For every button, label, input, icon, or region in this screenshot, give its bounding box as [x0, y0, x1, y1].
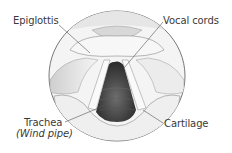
larynx-diagram: Epiglottis Vocal cords Trachea (Wind pip… — [0, 0, 232, 153]
label-wind-pipe: (Wind pipe) — [16, 128, 73, 139]
label-vocal-cords: Vocal cords — [163, 15, 219, 26]
label-epiglottis: Epiglottis — [13, 15, 59, 26]
label-trachea: Trachea — [24, 117, 62, 128]
label-cartilage: Cartilage — [164, 118, 208, 129]
